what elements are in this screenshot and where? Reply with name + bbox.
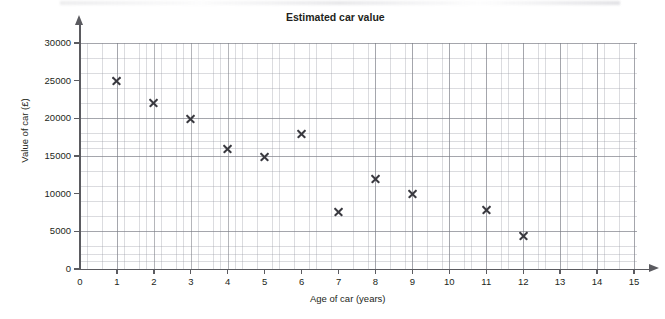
plot-area bbox=[80, 43, 637, 269]
y-axis-arrow bbox=[75, 15, 83, 25]
y-tick-label: 30000 bbox=[0, 37, 71, 48]
y-tick-mark bbox=[74, 42, 80, 43]
x-tick-label: 3 bbox=[176, 276, 206, 287]
y-tick-label-wrap: 5000 bbox=[0, 225, 71, 237]
x-tick-mark bbox=[301, 269, 302, 274]
x-tick-mark bbox=[412, 269, 413, 274]
y-tick-mark bbox=[74, 118, 80, 119]
y-tick-label-wrap: 25000 bbox=[0, 75, 71, 87]
x-axis-arrow bbox=[649, 264, 659, 272]
x-tick-label: 5 bbox=[250, 276, 280, 287]
x-tick-label: 6 bbox=[287, 276, 317, 287]
x-tick-label: 12 bbox=[508, 276, 538, 287]
x-tick-label: 13 bbox=[545, 276, 575, 287]
x-axis-title: Age of car (years) bbox=[310, 293, 386, 304]
x-tick-mark bbox=[116, 269, 117, 274]
x-tick-mark bbox=[227, 269, 228, 274]
y-tick-mark bbox=[74, 193, 80, 194]
x-tick-mark bbox=[523, 269, 524, 274]
x-tick-label: 15 bbox=[619, 276, 649, 287]
y-tick-label-wrap: 30000 bbox=[0, 37, 71, 49]
x-tick-label: 2 bbox=[139, 276, 169, 287]
x-tick-label: 10 bbox=[434, 276, 464, 287]
y-tick-mark bbox=[74, 155, 80, 156]
x-tick-mark bbox=[596, 269, 597, 274]
x-tick-mark bbox=[486, 269, 487, 274]
y-tick-mark bbox=[74, 231, 80, 232]
x-axis-line bbox=[79, 269, 650, 271]
y-tick-label: 10000 bbox=[0, 188, 71, 199]
y-tick-mark bbox=[74, 80, 80, 81]
y-tick-label-wrap: 15000 bbox=[0, 150, 71, 162]
y-tick-label: 5000 bbox=[0, 225, 71, 236]
y-tick-label: 20000 bbox=[0, 112, 71, 123]
x-tick-label: 7 bbox=[324, 276, 354, 287]
y-tick-label: 15000 bbox=[0, 150, 71, 161]
x-tick-mark bbox=[190, 269, 191, 274]
x-tick-label: 1 bbox=[102, 276, 132, 287]
y-tick-mark bbox=[74, 268, 80, 269]
y-axis-line bbox=[79, 24, 81, 270]
x-tick-label: 8 bbox=[360, 276, 390, 287]
y-tick-label: 0 bbox=[0, 263, 71, 274]
x-tick-label: 9 bbox=[397, 276, 427, 287]
y-tick-label-wrap: 10000 bbox=[0, 188, 71, 200]
x-tick-label: 4 bbox=[213, 276, 243, 287]
x-tick-mark bbox=[153, 269, 154, 274]
x-tick-mark bbox=[449, 269, 450, 274]
x-tick-mark bbox=[375, 269, 376, 274]
chart-page: Estimated car value 05000100001500020000… bbox=[0, 0, 665, 319]
y-tick-label-wrap: 20000 bbox=[0, 112, 71, 124]
x-tick-mark bbox=[338, 269, 339, 274]
x-tick-mark bbox=[264, 269, 265, 274]
x-tick-label: 0 bbox=[65, 276, 95, 287]
x-tick-label: 11 bbox=[471, 276, 501, 287]
y-tick-label-wrap: 0 bbox=[0, 263, 71, 275]
y-axis-title: Value of car (£) bbox=[19, 66, 30, 196]
x-tick-label: 14 bbox=[582, 276, 612, 287]
scan-artifact bbox=[60, 1, 620, 5]
x-tick-mark bbox=[559, 269, 560, 274]
chart-title: Estimated car value bbox=[286, 11, 385, 23]
y-tick-label: 25000 bbox=[0, 75, 71, 86]
x-tick-mark bbox=[633, 269, 634, 274]
